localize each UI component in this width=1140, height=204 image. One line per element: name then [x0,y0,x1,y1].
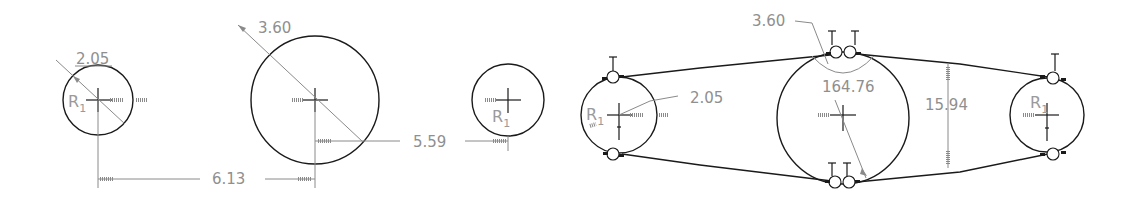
dimension-value: 2.05 [690,89,723,107]
tangent-point-left-top[interactable] [602,57,624,83]
angle-dimension-164-76[interactable]: 164.76 [812,56,875,96]
tangent-point-right-bottom[interactable] [1040,148,1066,160]
dimension-value: 5.59 [413,133,446,151]
pulley-large[interactable] [777,52,909,184]
tangent-point-right-top[interactable] [1040,54,1066,84]
radius-dimension-2-05-belt[interactable]: 2.05 [619,89,723,115]
dimension-value: 3.60 [752,12,785,30]
sketch-canvas[interactable]: 2.05 R1 3.60 6.13 5.59 [0,0,1140,204]
radius-dimension-2-05[interactable]: 2.05 [56,50,125,124]
distance-dimension-5-59[interactable]: 5.59 [315,133,508,151]
tangent-point-top-pair[interactable] [826,31,861,58]
radius-label: R1 [1030,93,1048,116]
tangent-point-left-bottom[interactable] [603,148,624,160]
dimension-value: 164.76 [822,78,875,96]
dimension-value: 6.13 [212,170,245,188]
dimension-value: 3.60 [258,19,291,37]
radius-label: R1 [586,105,604,128]
radius-label: R1 [68,92,86,115]
dimension-value: 15.94 [925,96,968,114]
dimension-value: 2.05 [76,50,109,68]
horizontal-dimension-6-13[interactable]: 6.13 [98,170,315,188]
circle-small-right[interactable] [472,64,544,151]
vertical-dimension-15-94[interactable]: 15.94 [925,63,968,168]
